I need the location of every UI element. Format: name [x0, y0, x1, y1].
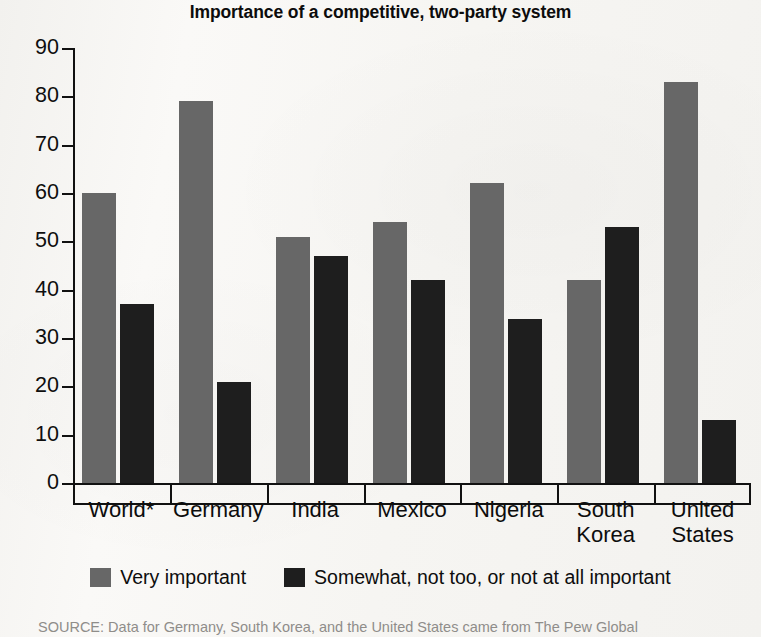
bar-world-series-1: [120, 304, 154, 483]
y-tick-label-70: 70: [9, 134, 59, 156]
y-axis-line: [73, 48, 75, 483]
source-note: SOURCE: Data for Germany, South Korea, a…: [38, 619, 738, 636]
y-tick-30: [62, 338, 73, 340]
x-axis-category-labels: World*GermanyIndiaMexicoNigeriaSouth Kor…: [73, 497, 751, 559]
bar-south-korea-series-0: [567, 280, 601, 483]
y-tick-80: [62, 96, 73, 98]
bar-india-series-1: [314, 256, 348, 483]
y-tick-40: [62, 290, 73, 292]
chart-legend: Very important Somewhat, not too, or not…: [0, 566, 761, 589]
y-tick-label-30: 30: [9, 327, 59, 349]
bar-world-series-0: [82, 193, 116, 483]
bar-germany-series-0: [179, 101, 213, 483]
x-label-united-states: United States: [654, 497, 751, 547]
bar-south-korea-series-1: [605, 227, 639, 483]
legend-swatch-somewhat: [284, 568, 305, 587]
legend-swatch-very-important: [90, 568, 111, 587]
legend-label-very-important: Very important: [120, 566, 246, 589]
bar-germany-series-1: [217, 382, 251, 484]
y-tick-label-0: 0: [9, 472, 59, 494]
bar-united-states-series-1: [702, 420, 736, 483]
y-tick-label-90: 90: [9, 37, 59, 59]
y-tick-90: [62, 48, 73, 50]
x-label-germany: Germany: [170, 497, 267, 522]
bar-nigeria-series-1: [508, 319, 542, 483]
x-label-mexico: Mexico: [364, 497, 461, 522]
y-tick-60: [62, 193, 73, 195]
y-tick-label-20: 20: [9, 375, 59, 397]
bar-united-states-series-0: [664, 82, 698, 483]
bar-mexico-series-1: [411, 280, 445, 483]
y-tick-20: [62, 386, 73, 388]
legend-item-very-important: Very important: [90, 566, 246, 589]
x-label-nigeria: Nigeria: [460, 497, 557, 522]
bar-nigeria-series-0: [470, 183, 504, 483]
bar-india-series-0: [276, 237, 310, 484]
y-tick-label-50: 50: [9, 230, 59, 252]
x-label-world: World*: [73, 497, 170, 522]
bar-mexico-series-0: [373, 222, 407, 483]
y-tick-50: [62, 241, 73, 243]
x-axis-line: [73, 483, 751, 485]
y-tick-label-80: 80: [9, 85, 59, 107]
y-tick-10: [62, 435, 73, 437]
y-tick-70: [62, 145, 73, 147]
y-tick-label-60: 60: [9, 182, 59, 204]
chart-title: Importance of a competitive, two-party s…: [0, 2, 761, 23]
legend-item-somewhat: Somewhat, not too, or not at all importa…: [284, 566, 671, 589]
x-label-south-korea: South Korea: [557, 497, 654, 547]
y-tick-0: [62, 483, 73, 485]
y-tick-label-40: 40: [9, 279, 59, 301]
plot-area: 0102030405060708090: [73, 48, 751, 483]
y-tick-label-10: 10: [9, 424, 59, 446]
legend-label-somewhat: Somewhat, not too, or not at all importa…: [314, 566, 671, 589]
x-label-india: India: [267, 497, 364, 522]
